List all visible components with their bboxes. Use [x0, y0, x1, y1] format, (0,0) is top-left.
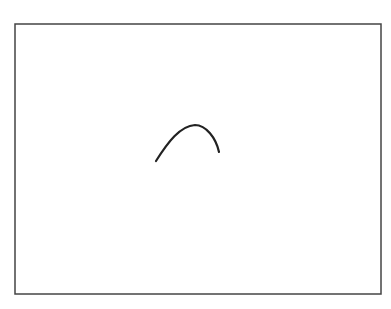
drawing-canvas[interactable]	[0, 0, 391, 309]
canvas-frame	[15, 24, 381, 294]
drawing-stage	[0, 0, 391, 309]
drawn-arc-stroke	[156, 125, 219, 161]
